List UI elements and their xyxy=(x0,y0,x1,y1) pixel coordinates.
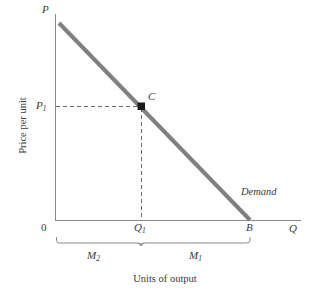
x-tick-label-q1-sub: 1 xyxy=(142,226,146,235)
bracket-label-m2: M2 xyxy=(87,250,100,263)
chart-canvas xyxy=(0,0,311,295)
bracket-label-m1-base: M xyxy=(189,249,198,261)
origin-label: 0 xyxy=(41,222,47,233)
x-tick-label-q1-base: Q xyxy=(134,221,142,233)
y-axis-symbol: P xyxy=(42,4,49,15)
point-b-label: B xyxy=(246,222,253,233)
x-axis-symbol: Q xyxy=(289,223,297,234)
bracket-label-m2-base: M xyxy=(87,249,96,261)
bracket-m1 xyxy=(138,238,250,247)
point-c-label: C xyxy=(148,91,155,102)
bracket-m2 xyxy=(57,238,145,247)
demand-curve-figure: P Q 0 P1 Q1 C B Demand M2 M1 Price per u… xyxy=(0,0,311,295)
bracket-label-m1-sub: 1 xyxy=(198,254,202,263)
y-axis-title: Price per unit xyxy=(17,46,28,206)
x-axis-title: Units of output xyxy=(95,273,235,284)
point-c-marker xyxy=(138,103,146,111)
demand-curve-label: Demand xyxy=(241,187,277,198)
y-tick-label-p1: P1 xyxy=(36,100,46,113)
y-tick-label-p1-base: P xyxy=(36,99,43,111)
bracket-label-m1: M1 xyxy=(189,250,202,263)
y-tick-label-p1-sub: 1 xyxy=(43,104,47,113)
bracket-label-m2-sub: 2 xyxy=(96,254,100,263)
demand-curve-line xyxy=(59,23,250,220)
x-tick-label-q1: Q1 xyxy=(134,222,146,235)
